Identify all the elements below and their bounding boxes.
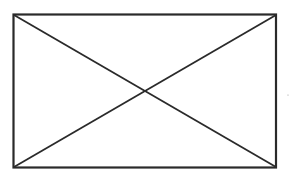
crossed-rectangle-figure: [0, 0, 291, 174]
diagram-canvas: [0, 0, 291, 174]
speck-mark: [287, 94, 288, 95]
